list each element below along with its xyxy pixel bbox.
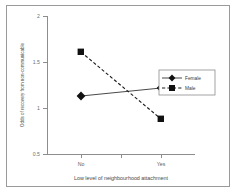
- y-tick-label-1-5: 1.5: [33, 59, 40, 65]
- chart-figure: 2 1.5 1 0.5 No Yes Low level of neighbou…: [6, 5, 230, 187]
- chart-legend: Female Male: [159, 70, 215, 95]
- x-axis-title: Low level of neighbourhood attachment: [74, 175, 169, 181]
- plot-area: 2 1.5 1 0.5 No Yes Low level of neighbou…: [7, 6, 229, 186]
- x-tick-label-no: No: [78, 161, 85, 167]
- legend-marker-male: [169, 85, 175, 91]
- series-line-male: [81, 52, 161, 119]
- data-point-male-yes: [158, 116, 164, 122]
- series-line-female: [81, 88, 161, 96]
- legend-label-female: Female: [185, 76, 201, 81]
- legend-label-male: Male: [185, 86, 196, 91]
- y-tick-label-0-5: 0.5: [33, 151, 40, 157]
- x-tick-label-yes: Yes: [157, 161, 166, 167]
- data-point-male-no: [78, 49, 84, 55]
- data-point-female-no: [77, 92, 86, 101]
- y-tick-label-1: 1: [37, 105, 40, 111]
- legend-frame: [159, 70, 215, 95]
- y-axis-title: Odds of recovery from non-communicable: [20, 43, 25, 127]
- y-tick-label-2: 2: [37, 13, 40, 19]
- chart-svg: 2 1.5 1 0.5 No Yes Low level of neighbou…: [7, 6, 229, 186]
